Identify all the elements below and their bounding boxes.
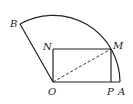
segment-OB [20,24,53,82]
label-M: M [112,40,124,51]
label-P: P [106,86,114,97]
label-A: A [117,86,125,97]
sector-diagram: B N M O P A [0,0,133,104]
segment-OM-dashed [53,49,111,82]
label-N: N [42,41,53,52]
label-O: O [48,86,56,97]
label-B: B [9,18,17,29]
